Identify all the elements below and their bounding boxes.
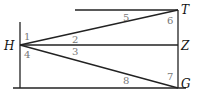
angle-label-1: 1 xyxy=(24,31,30,42)
point-label-H: H xyxy=(3,39,15,53)
point-label-Z: Z xyxy=(180,39,190,53)
angle-label-7: 7 xyxy=(167,71,173,82)
segment-HT xyxy=(20,10,178,45)
angle-label-3: 3 xyxy=(72,46,78,57)
point-label-T: T xyxy=(181,3,190,17)
angle-label-2: 2 xyxy=(72,34,78,45)
angle-label-6: 6 xyxy=(167,15,173,26)
segment-HG xyxy=(20,45,178,88)
geometry-diagram: H T Z G 1 2 3 4 5 6 7 8 xyxy=(0,0,199,95)
point-label-G: G xyxy=(181,77,191,91)
angle-label-5: 5 xyxy=(123,12,129,23)
angle-label-8: 8 xyxy=(123,75,129,86)
angle-label-4: 4 xyxy=(24,49,30,60)
